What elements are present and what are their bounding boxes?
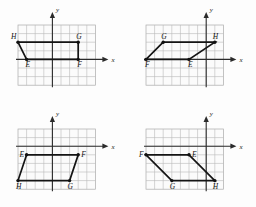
x-axis-label: x	[238, 143, 243, 151]
vertex-label-f: F	[76, 60, 82, 69]
x-axis-arrowhead	[230, 144, 236, 149]
y-axis-label: y	[55, 110, 60, 118]
vertex-point-f	[77, 153, 80, 156]
figure-sheet: xyEFGH xyEFGH xyEFGH xyEFGH	[0, 0, 256, 207]
coordinate-plane: xyEFGH	[128, 0, 256, 103]
coordinate-plane: xyEFGH	[0, 0, 128, 103]
vertex-point-e	[25, 153, 28, 156]
y-axis-arrowhead	[50, 12, 55, 18]
panel-bottom-left: xyEFGH	[0, 104, 128, 207]
y-axis-label: y	[55, 6, 60, 14]
x-axis-arrowhead	[102, 144, 108, 149]
vertex-label-g: G	[161, 32, 167, 41]
x-axis-label: x	[110, 56, 115, 64]
panel-top-right: xyEFGH	[128, 0, 256, 103]
vertex-label-e: E	[19, 150, 25, 159]
vertex-label-h: H	[10, 32, 17, 41]
y-axis-label: y	[209, 6, 214, 14]
vertex-label-e: E	[25, 60, 31, 69]
vertex-label-h: H	[212, 182, 219, 191]
coordinate-plane: xyEFGH	[0, 104, 128, 207]
coordinate-plane: xyEFGH	[128, 104, 256, 207]
panel-top-left: xyEFGH	[0, 0, 128, 103]
vertex-label-h: H	[15, 182, 22, 191]
vertex-label-f: F	[138, 150, 144, 159]
grid-frame	[146, 25, 223, 85]
y-axis-arrowhead	[204, 116, 209, 122]
x-axis-label: x	[110, 143, 115, 151]
vertex-label-g: G	[68, 182, 74, 191]
panel-bottom-right: xyEFGH	[128, 104, 256, 207]
y-axis-label: y	[209, 110, 214, 118]
vertex-label-f: F	[144, 60, 150, 69]
grid-frame	[18, 25, 95, 85]
vertex-point-f	[144, 153, 147, 156]
vertex-point-h	[16, 41, 19, 44]
y-axis-arrowhead	[204, 12, 209, 18]
vertex-label-h: H	[212, 32, 219, 41]
vertex-label-f: F	[80, 150, 86, 159]
y-axis-arrowhead	[50, 116, 55, 122]
vertex-label-e: E	[187, 60, 193, 69]
x-axis-arrowhead	[102, 57, 108, 62]
vertex-label-e: E	[191, 150, 197, 159]
vertex-point-e	[187, 153, 190, 156]
vertex-label-g: G	[170, 182, 176, 191]
x-axis-label: x	[238, 56, 243, 64]
x-axis-arrowhead	[230, 57, 236, 62]
vertex-label-g: G	[76, 32, 82, 41]
